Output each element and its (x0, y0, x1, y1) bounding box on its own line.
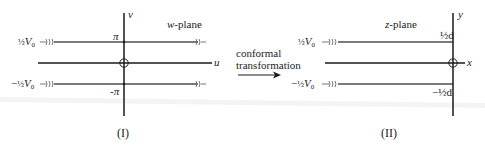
panel-w-plane: v u w-plane π -π ½V0 −½V0 (I) (11, 8, 220, 140)
upper-potential-label: ½V0 (298, 35, 315, 49)
v-axis-label: v (128, 8, 133, 20)
caption-II: (II) (381, 126, 397, 140)
neg-half-d-tick-label: −½d (432, 86, 452, 98)
conformal-transformation-arrow: conformal transformation (236, 47, 301, 79)
tick-dot (123, 41, 125, 43)
upper-potential-label: ½V0 (18, 35, 35, 49)
caption-I: (I) (117, 126, 129, 140)
y-axis-label: y (457, 8, 463, 20)
z-plane-label: z-plane (384, 18, 417, 30)
w-plane-label: w-plane (167, 18, 202, 30)
page-shadow (0, 97, 485, 108)
x-axis-label: x (466, 56, 472, 68)
conformal-map-diagram: v u w-plane π -π ½V0 −½V0 (I) conformal … (0, 0, 485, 148)
arrow-label-line2: transformation (236, 59, 301, 71)
neg-pi-tick-label: -π (110, 85, 120, 97)
lower-potential-label: −½V0 (291, 77, 315, 91)
pi-tick-label: π (113, 30, 119, 42)
arrow-label-line1: conformal (236, 47, 281, 59)
panel-z-plane: y x z-plane ½d −½d ½V0 −½V0 (II) (291, 8, 472, 140)
half-d-tick-label: ½d (440, 29, 454, 41)
u-axis-label: u (214, 56, 220, 68)
tick-dot (123, 83, 125, 85)
lower-potential-label: −½V0 (11, 77, 35, 91)
